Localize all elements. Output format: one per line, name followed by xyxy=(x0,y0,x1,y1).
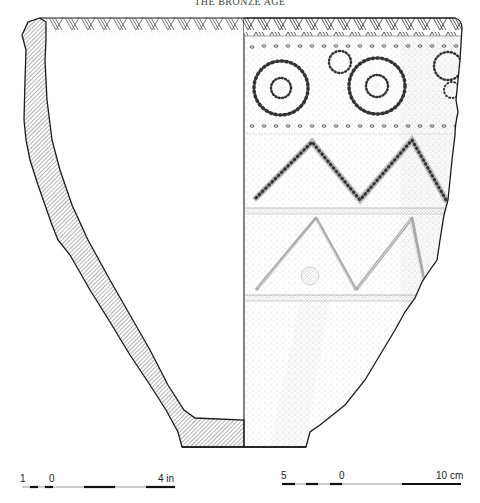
interior-rim-band xyxy=(40,18,244,36)
scale-cm-zero-label: 0 xyxy=(339,470,345,481)
scale-inch-zero-label: 0 xyxy=(49,473,55,484)
exterior-elevation xyxy=(244,18,464,448)
scale-inch-right-label: 4 in xyxy=(158,473,174,484)
scale-inch-left-label: 1 xyxy=(20,473,26,484)
vessel-drawing xyxy=(0,0,480,503)
ridge-lower xyxy=(244,295,464,301)
scale-cm-right-label: 10 cm xyxy=(436,470,463,481)
rim-hatch-band xyxy=(244,18,464,36)
scale-cm-left-label: 5 xyxy=(281,470,287,481)
applied-boss xyxy=(301,267,319,285)
section-profile xyxy=(22,18,244,447)
vessel-wall-section xyxy=(22,18,244,447)
ridge-upper xyxy=(244,208,464,214)
